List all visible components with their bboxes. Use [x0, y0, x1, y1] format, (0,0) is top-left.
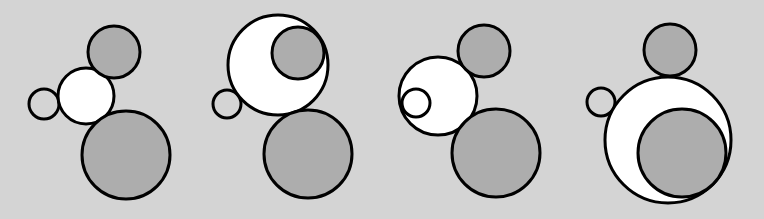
large-gray-circle — [82, 111, 170, 199]
top-gray-circle — [458, 25, 510, 77]
top-gray-circle — [644, 24, 696, 76]
large-gray-circle — [452, 109, 540, 197]
large-gray-circle — [638, 109, 726, 197]
circles-diagram — [0, 0, 764, 219]
large-gray-circle — [264, 110, 352, 198]
top-gray-circle — [272, 27, 324, 79]
top-gray-circle — [88, 26, 140, 78]
